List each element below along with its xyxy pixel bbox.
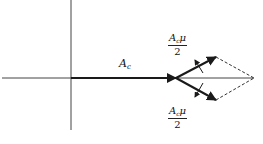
- lower-sideband-label: Acμ 2: [168, 106, 187, 130]
- lower-label-numerator: Acμ: [168, 106, 187, 119]
- lower-label-denominator: 2: [168, 119, 187, 130]
- carrier-label-main: A: [119, 57, 127, 70]
- upper-dashed-line: [216, 57, 254, 78]
- upper-sideband-label: Acμ 2: [168, 33, 187, 57]
- carrier-label-sub: c: [127, 63, 131, 71]
- lower-sideband-arrow: [176, 78, 216, 100]
- phasor-diagram: Ac Acμ 2 Acμ 2: [0, 0, 263, 144]
- lower-dashed-line: [216, 78, 254, 100]
- diagram-graphics: [0, 0, 263, 144]
- carrier-label: Ac: [119, 58, 131, 71]
- upper-sideband-arrow: [176, 57, 216, 78]
- upper-label-denominator: 2: [168, 46, 187, 57]
- upper-label-numerator: Acμ: [168, 33, 187, 46]
